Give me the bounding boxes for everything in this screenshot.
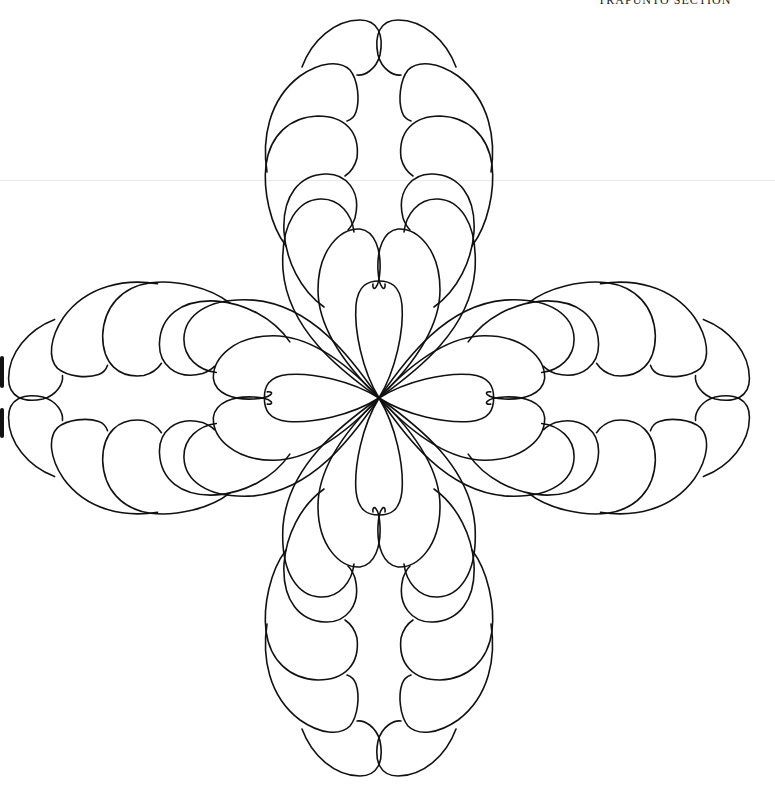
feather-wreath: [0, 0, 775, 794]
arm-left: [9, 282, 379, 514]
arm-right: [379, 282, 749, 514]
arm-bottom: [265, 398, 492, 776]
arm-top: [265, 20, 492, 398]
